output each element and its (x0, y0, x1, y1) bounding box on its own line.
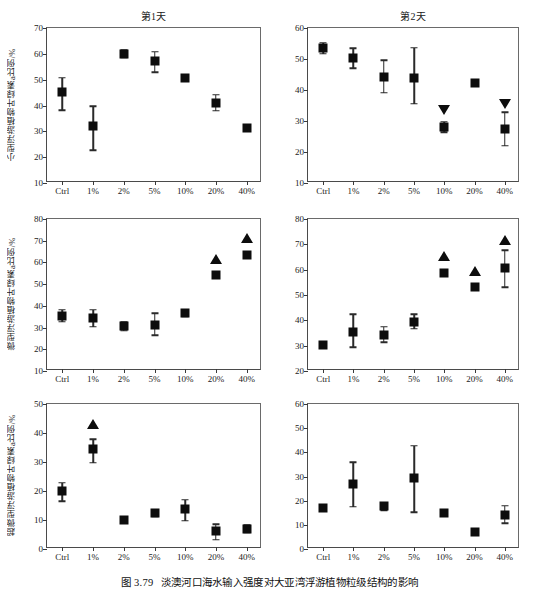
error-cap-top (59, 482, 66, 484)
error-bar (184, 310, 186, 316)
error-cap-top (182, 309, 189, 311)
data-point-marker (58, 312, 67, 321)
y-tick-mark (43, 371, 47, 372)
x-tick-label: Ctrl (316, 186, 330, 196)
data-point-marker (150, 57, 159, 66)
data-point-marker (440, 122, 449, 131)
y-tick-mark (43, 28, 47, 29)
figure-caption: 图 3.79淡澳河口海水输入强度对大亚湾浮游植物粒级结构的影响 (0, 574, 539, 589)
error-cap-top (350, 462, 357, 464)
y-tick-label: 30 (34, 457, 43, 467)
y-tick-mark (304, 404, 308, 405)
y-tick-mark (43, 284, 47, 285)
x-tick-mark (216, 547, 217, 551)
x-tick-mark (505, 547, 506, 551)
error-bar (92, 439, 94, 463)
y-tick-label: 50 (295, 54, 304, 64)
y-tick-mark (304, 549, 308, 550)
error-cap-top (411, 47, 418, 49)
data-point-marker (379, 72, 388, 81)
error-bar (154, 510, 156, 517)
x-tick-mark (505, 181, 506, 185)
x-tick-mark (247, 369, 248, 373)
plot-area-pico-day1: 01020304050Ctrl1%2%5%10%20%40% (46, 403, 261, 548)
y-tick-label: 50 (34, 279, 43, 289)
error-cap-top (59, 309, 66, 311)
chart-panel-micro-day2: 第2天102030405060Ctrl1%2%5%10%20%40% (0, 0, 539, 593)
data-point-marker (242, 124, 251, 133)
panel-title-micro-day2: 第2天 (307, 8, 519, 23)
error-cap-bottom (151, 335, 158, 337)
error-cap-top (90, 105, 97, 107)
y-tick-label: 10 (34, 178, 43, 188)
x-tick-mark (185, 181, 186, 185)
error-cap-top (212, 94, 219, 96)
error-bar (62, 483, 64, 501)
error-bar (322, 43, 324, 54)
plot-area-pico-day2: 0102030405060Ctrl1%2%5%10%20%40% (307, 403, 519, 548)
error-cap-top (212, 524, 219, 526)
y-tick-mark (304, 270, 308, 271)
x-tick-mark (62, 369, 63, 373)
x-tick-label: 2% (118, 374, 130, 384)
x-tick-label: 20% (208, 374, 225, 384)
data-point-marker (349, 328, 358, 337)
y-tick-label: 10 (295, 178, 304, 188)
y-tick-mark (304, 219, 308, 220)
error-cap-bottom (151, 71, 158, 73)
y-tick-mark (304, 28, 308, 29)
error-cap-top (350, 47, 357, 49)
error-cap-top (120, 517, 127, 519)
data-point-marker (319, 340, 328, 349)
y-tick-label: 40 (34, 428, 43, 438)
x-tick-mark (323, 547, 324, 551)
x-tick-mark (124, 547, 125, 551)
data-point-marker (242, 251, 251, 260)
data-point-marker (319, 503, 328, 512)
data-point-marker (181, 309, 190, 318)
x-tick-mark (475, 547, 476, 551)
error-bar (62, 310, 64, 322)
y-tick-label: 10 (34, 515, 43, 525)
figure-root: 第1天小型浮游植物叶绿素a比例/%10203040506070Ctrl1%2%5… (0, 0, 539, 593)
y-tick-label: 20 (295, 147, 304, 157)
error-cap-top (120, 50, 127, 52)
y-tick-mark (304, 152, 308, 153)
error-cap-bottom (182, 315, 189, 317)
y-tick-mark (43, 549, 47, 550)
y-tick-mark (43, 183, 47, 184)
x-tick-mark (124, 181, 125, 185)
x-tick-mark (384, 547, 385, 551)
error-cap-bottom (182, 79, 189, 81)
y-tick-label: 50 (295, 290, 304, 300)
y-tick-mark (304, 244, 308, 245)
error-bar (92, 310, 94, 327)
x-tick-mark (444, 181, 445, 185)
data-point-marker (58, 487, 67, 496)
data-point-marker (500, 511, 509, 520)
y-tick-label: 40 (295, 447, 304, 457)
error-cap-bottom (380, 341, 387, 343)
error-bar (353, 462, 355, 506)
y-tick-label: 30 (34, 126, 43, 136)
error-bar (154, 52, 156, 72)
y-tick-mark (43, 404, 47, 405)
error-bar (62, 78, 64, 110)
data-point-marker (500, 263, 509, 272)
error-cap-bottom (501, 145, 508, 147)
error-cap-bottom (59, 109, 66, 111)
x-tick-label: Ctrl (55, 186, 69, 196)
y-tick-label: 30 (295, 341, 304, 351)
data-point-marker (211, 270, 220, 279)
error-bar (413, 314, 415, 329)
error-bar (383, 327, 385, 342)
x-tick-label: 1% (87, 552, 99, 562)
x-tick-mark (323, 181, 324, 185)
y-tick-label: 70 (295, 239, 304, 249)
significance-triangle-up (438, 251, 450, 261)
y-tick-mark (304, 477, 308, 478)
x-tick-label: Ctrl (316, 552, 330, 562)
y-tick-mark (43, 433, 47, 434)
y-tick-label: 10 (295, 520, 304, 530)
data-point-marker (181, 505, 190, 514)
